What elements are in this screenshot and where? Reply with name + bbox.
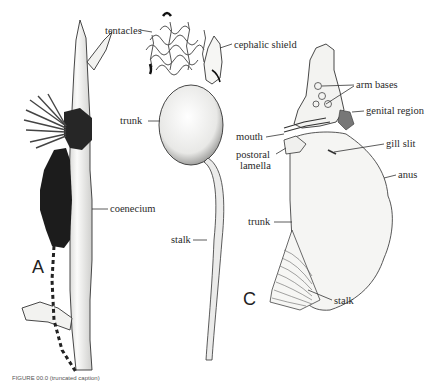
label-postoral-lamella-2: lamella: [240, 161, 271, 172]
tentacle-plume-a: [24, 94, 66, 148]
label-stalk-b: stalk: [171, 235, 191, 246]
label-anus: anus: [398, 170, 417, 181]
illustration-canvas: [0, 0, 448, 383]
panel-label-a: A: [32, 258, 44, 276]
genital-region: [338, 110, 354, 130]
leader-cephalic-shield: [220, 44, 232, 48]
label-stalk-c: stalk: [334, 296, 354, 307]
label-genital-region: genital region: [366, 106, 424, 117]
tentacle-crown: [146, 22, 206, 75]
cephalic-shield: [204, 36, 222, 84]
leader-mouth: [266, 134, 284, 137]
label-coenecium: coenecium: [110, 204, 155, 215]
label-mouth: mouth: [236, 132, 263, 143]
zooid-body-dark: [40, 148, 72, 248]
label-trunk-b: trunk: [120, 116, 142, 127]
arm-region: [294, 44, 344, 128]
leader-tentacles: [140, 30, 152, 32]
leader-postoral-lamella: [276, 148, 286, 154]
label-arm-bases: arm bases: [356, 80, 398, 91]
coenecium-tube: [69, 20, 92, 370]
panel-a-drawing: [22, 20, 112, 372]
tube-branch-bottom: [22, 302, 72, 330]
trunk-b: [159, 85, 223, 165]
label-tentacles: tentacles: [105, 26, 142, 37]
panel-b-drawing: [140, 13, 232, 360]
stalk-b: [204, 158, 224, 360]
figure-caption: FIGURE 00.0 (truncated caption): [12, 375, 100, 381]
label-gill-slit: gill slit: [386, 139, 415, 150]
leader-anus: [384, 175, 396, 178]
panel-label-c: C: [243, 290, 256, 308]
tube-branch-top: [87, 32, 112, 70]
leader-genital-region: [352, 111, 364, 112]
label-cephalic-shield: cephalic shield: [234, 40, 297, 51]
label-postoral-lamella-1: postoral: [236, 150, 270, 161]
label-trunk-c: trunk: [248, 217, 270, 228]
